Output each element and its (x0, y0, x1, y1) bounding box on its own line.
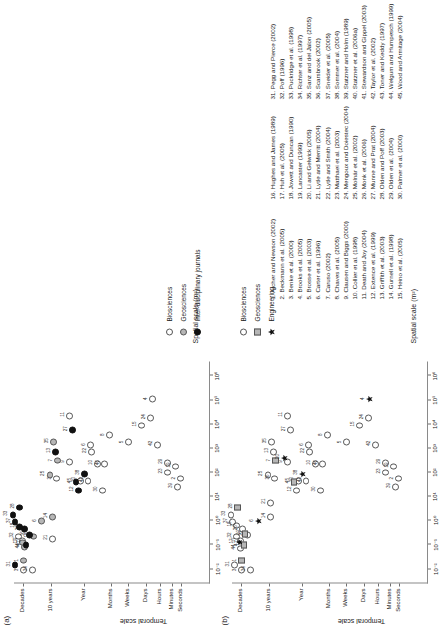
y-tick-label: Months (107, 588, 113, 629)
open-circle-marker (231, 562, 238, 569)
data-point-label: 12 (69, 486, 74, 491)
y-tick-mark (390, 583, 391, 586)
x-tick-mark (210, 399, 213, 400)
x-tick-mark (428, 447, 431, 448)
reference-item: 30. Palmer et al. (2000) (395, 106, 404, 199)
data-point-label: 15 (350, 421, 355, 426)
black-star-marker (236, 539, 243, 546)
open-circle-marker (293, 487, 300, 494)
data-point-label: 38 (75, 469, 80, 474)
y-tick-label: Hours (374, 588, 380, 629)
x-tick-mark (428, 495, 431, 496)
data-point-label: 2 (389, 476, 394, 479)
y-tick-mark (364, 583, 365, 586)
reference-item: 42. Taylor et al. (2002) (368, 3, 377, 99)
open-circle-marker (138, 422, 145, 429)
x-tick-mark (428, 399, 431, 400)
data-point-label: 37 (223, 517, 228, 522)
x-tick-label: 10⁶ (432, 368, 438, 382)
star-icon (255, 517, 262, 524)
data-point-label: 4 (360, 397, 365, 400)
black-circle-marker (69, 426, 76, 433)
y-tick-mark (128, 583, 129, 586)
gray-circle-marker (47, 471, 54, 478)
reference-item: 39. Statzner and Holm (1989) (341, 3, 350, 99)
x-tick-mark (210, 423, 213, 424)
x-tick-label: 10² (432, 465, 438, 479)
y-tick-label: Year (80, 588, 86, 629)
y-tick-label: Seconds (177, 588, 183, 629)
gray-square-marker (242, 530, 249, 537)
reference-item: 20. Li and Gelwick (2005) (304, 106, 313, 199)
open-circle-marker (271, 475, 278, 482)
data-point-label: 10 (306, 459, 311, 464)
x-tick-mark (210, 447, 213, 448)
reference-item: 15. Heino et al. (2005) (395, 219, 404, 299)
open-circle-marker (125, 438, 132, 445)
reference-item: 1. Archer and Newson (2002) (268, 219, 277, 299)
reference-item: 45. Wood and Armitage (2004) (395, 3, 404, 99)
open-circle-marker (99, 487, 106, 494)
open-circle-marker (228, 511, 235, 518)
data-point-label: 27 (63, 426, 68, 431)
reference-item: 21. Lytle and Merritt (2004) (313, 106, 322, 199)
gray-circle-marker (49, 513, 56, 520)
open-circle-marker (305, 441, 312, 448)
data-point-label: 6 (299, 443, 304, 446)
reference-item: 28. Olden and Poff (2003) (377, 106, 386, 199)
open-circle-marker (306, 448, 313, 455)
open-circle-marker (247, 566, 254, 573)
black-circle-marker (10, 511, 17, 518)
data-point-label: 22 (82, 447, 87, 452)
open-circle-marker (147, 414, 154, 421)
reference-item: 40. Statzner et al. (2006a) (350, 3, 359, 99)
legend-item-geosciences: Geosciences (178, 249, 189, 336)
data-point-label: 39 (168, 482, 173, 487)
reference-item: 25. Molnár et al. (2002) (350, 106, 359, 199)
gray-square-marker (291, 478, 298, 485)
open-circle-marker (287, 426, 294, 433)
data-point-label: 15 (132, 421, 137, 426)
reference-item: 23. Matthaei et al. (2003) (332, 106, 341, 199)
gray-square-marker (254, 328, 261, 335)
black-star-marker (366, 395, 373, 402)
data-point-label: 30 (311, 486, 316, 491)
reference-item: 43. Toner and Keddy (1997) (377, 3, 386, 99)
data-point-label: 28 (10, 503, 15, 508)
data-point-label: 29 (376, 458, 381, 463)
data-point-label: 3 (14, 568, 19, 571)
reference-item: 32. Poff (1996) (277, 3, 286, 99)
x-tick-label: 10⁻² (432, 562, 439, 576)
open-circle-marker (66, 458, 73, 465)
y-tick-mark (269, 583, 270, 586)
legend-label: Biosciences (240, 286, 247, 321)
legend-label: Inter-disciplinary journals (194, 249, 201, 321)
data-point-label: 7 (48, 458, 53, 461)
data-point-label: 4 (143, 397, 148, 400)
black-circle-marker (75, 487, 82, 494)
data-point-label: 28 (228, 503, 233, 508)
data-point-label: 23 (158, 468, 163, 473)
data-point-label: 25 (40, 470, 45, 475)
reference-item: 7. Caruso (2002) (323, 219, 332, 299)
black-circle-marker (81, 470, 88, 477)
reference-item: 3. Benke et al. (2000) (286, 219, 295, 299)
y-tick-label: Decades (237, 588, 243, 629)
y-tick-label: Decades (19, 588, 25, 629)
open-circle-marker (268, 438, 275, 445)
open-circle-marker (177, 475, 184, 482)
x-tick-label: 10³ (432, 441, 438, 455)
open-circle-marker (382, 469, 389, 476)
data-point-label: 39 (386, 482, 391, 487)
x-tick-label: 10⁵ (432, 393, 438, 407)
data-point-label: 12 (287, 486, 292, 491)
open-circle-marker (20, 566, 27, 573)
y-tick-mark (346, 583, 347, 586)
x-tick-mark (210, 374, 213, 375)
data-point-label: 23 (376, 468, 381, 473)
data-point-label: 42 (366, 440, 371, 445)
reference-item: 10. Collier et al. (1998) (350, 219, 359, 299)
legend-swatch (193, 327, 202, 336)
x-tick-label: 10¹ (432, 489, 438, 503)
star-icon (236, 539, 243, 546)
